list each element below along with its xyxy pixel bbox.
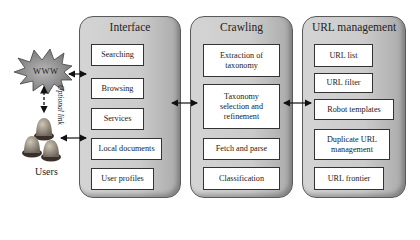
- optional-link-label: Optional link: [56, 82, 64, 128]
- users-label: Users: [35, 166, 58, 177]
- www-label: WWW: [33, 66, 59, 76]
